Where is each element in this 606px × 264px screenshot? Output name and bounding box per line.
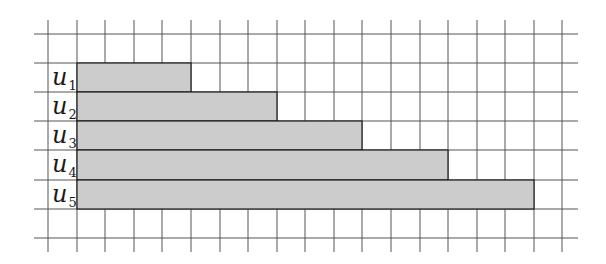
grid-diagram: u1u2u3u4u5 [0,0,606,264]
bar-u5 [77,180,534,209]
bar-u1 [77,63,191,92]
bar-u2 [77,92,277,121]
row-label-subscript: 1 [68,78,76,93]
row-label-u5: u5 [52,180,77,210]
diagram-canvas: u1u2u3u4u5 [0,0,606,264]
bar-u4 [77,150,448,180]
row-label-u1: u1 [52,63,77,93]
row-label-subscript: 4 [68,165,76,180]
row-label-u4: u4 [52,150,77,180]
row-label-subscript: 3 [68,136,76,151]
row-labels: u1u2u3u4u5 [52,63,77,210]
row-label-u3: u3 [52,121,77,151]
row-label-u2: u2 [52,92,77,122]
bar-u3 [77,121,362,150]
row-label-subscript: 2 [68,107,76,122]
row-label-subscript: 5 [68,195,76,210]
